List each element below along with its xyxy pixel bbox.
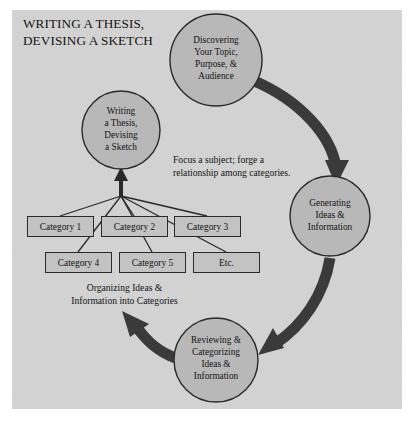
page-title-line2: DEVISING A SKETCH: [23, 33, 213, 50]
label-writing-a-thesis-line4: a Sketch: [105, 142, 137, 152]
label-generating-ideas-line2: Ideas &: [315, 210, 345, 220]
focus-caption: Focus a subject; forge a relationship am…: [173, 154, 323, 180]
box-category-1: Category 1: [27, 216, 94, 237]
box-category-1-label: Category 1: [40, 222, 81, 232]
label-reviewing-line1: Reviewing &: [191, 335, 242, 345]
box-category-3-label: Category 3: [187, 222, 228, 232]
box-category-5-label: Category 5: [132, 258, 173, 268]
diagram-graphics: Writing a Thesis, Devising a Sketch Disc…: [0, 0, 415, 424]
organizing-caption: Organizing Ideas & Information into Cate…: [37, 282, 212, 308]
organizing-caption-line1: Organizing Ideas &: [37, 282, 212, 295]
box-category-4-label: Category 4: [58, 258, 99, 268]
box-category-5: Category 5: [119, 252, 186, 273]
label-writing-a-thesis-line2: a Thesis,: [105, 118, 138, 128]
organizing-caption-line2: Information into Categories: [37, 295, 212, 308]
page-title-line1: WRITING A THESIS,: [23, 16, 213, 33]
label-reviewing-line4: Information: [194, 371, 239, 381]
label-discovering-topic-line3: Purpose, &: [195, 59, 238, 69]
label-reviewing-line2: Categorizing: [192, 347, 240, 357]
label-generating-ideas-line3: Information: [308, 222, 353, 232]
box-category-4: Category 4: [45, 252, 112, 273]
box-category-2: Category 2: [101, 216, 168, 237]
box-etc-label: Etc.: [219, 258, 234, 268]
focus-caption-line2: relationship among categories.: [173, 167, 323, 180]
label-writing-a-thesis-line1: Writing: [107, 106, 136, 116]
thesis-process-diagram: Writing a Thesis, Devising a Sketch Disc…: [0, 0, 415, 424]
page-title: WRITING A THESIS, DEVISING A SKETCH: [23, 16, 213, 50]
box-category-3: Category 3: [174, 216, 241, 237]
box-category-2-label: Category 2: [114, 222, 155, 232]
box-etc: Etc.: [193, 252, 260, 273]
label-reviewing-line3: Ideas &: [201, 359, 231, 369]
focus-caption-line1: Focus a subject; forge a: [173, 154, 323, 167]
label-discovering-topic-line4: Audience: [198, 71, 234, 81]
label-writing-a-thesis-line3: Devising: [104, 130, 138, 140]
label-generating-ideas-line1: Generating: [309, 198, 351, 208]
